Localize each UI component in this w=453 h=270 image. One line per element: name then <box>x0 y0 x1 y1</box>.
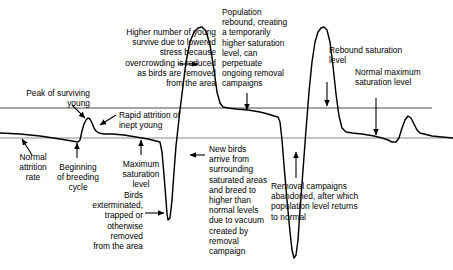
label-normal-maximum-saturation-level: Normal maximum saturation level <box>355 67 451 87</box>
label-higher-number-young: Higher number of young survive due to lo… <box>88 27 216 88</box>
reference-lines <box>0 108 453 138</box>
label-removal-campaigns-abandoned: Removal campaigns abandoned, after which… <box>271 181 395 222</box>
label-peak-of-surviving-young: Peak of surviving young <box>6 88 90 108</box>
label-beginning-of-breeding-cycle: Beginning of breeding cycle <box>47 162 109 193</box>
arrow-rapid-attrition <box>100 115 116 125</box>
label-population-rebound: Population rebound, creating a temporari… <box>222 7 288 89</box>
diagram-canvas: Higher number of young survive due to lo… <box>0 0 453 270</box>
label-birds-exterminated: Birds exterminated, trapped or otherwise… <box>79 190 143 251</box>
label-maximum-saturation-level: Maximum saturation level <box>112 159 170 190</box>
label-new-birds-arrive: New birds arrive from surrounding satura… <box>209 144 277 256</box>
label-rebound-saturation-level: Rebound saturation level <box>329 45 425 65</box>
label-rapid-attrition: Rapid attrition of inept young <box>119 110 209 130</box>
